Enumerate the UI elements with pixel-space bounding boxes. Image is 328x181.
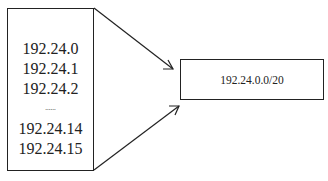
arrow-bottom: [94, 106, 179, 170]
arrow-top: [94, 8, 173, 69]
arrows: [0, 0, 328, 181]
